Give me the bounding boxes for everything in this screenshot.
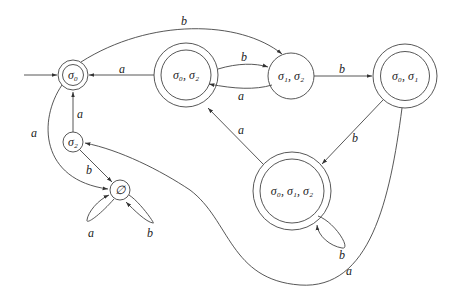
edge-label-s012-loop: b [339, 248, 345, 263]
edge-label-s2-empty: b [86, 163, 92, 178]
edge-label-s12-s02: a [238, 89, 244, 104]
edge-label-s01-s2: a [346, 264, 352, 279]
edge-label-s12-s01: b [339, 62, 345, 77]
edge-label-empty-loop-b: b [147, 226, 153, 241]
state-s0-label: σ₀ [68, 68, 78, 83]
edge-label-s0-empty: a [31, 126, 37, 141]
state-s02-label: σ₀, σ₂ [173, 68, 199, 83]
diagram-edges [0, 0, 459, 299]
edge-label-s01-s012: b [352, 131, 358, 146]
state-s12-label: σ₁, σ₂ [278, 69, 304, 84]
edge-label-s0-s12: b [181, 14, 187, 29]
edge-label-s02-s12: b [241, 50, 247, 65]
edge-label-s02-s0: a [119, 62, 125, 77]
edge-label-s2-s0: a [77, 107, 83, 122]
edge-label-s012-s02: a [238, 123, 244, 138]
state-s01-label: σ₀, σ₁ [392, 69, 418, 84]
state-s2-label: σ₂ [68, 135, 78, 150]
state-s012-label: σ₀, σ₁, σ₂ [271, 184, 313, 199]
edge-label-empty-loop-a: a [88, 226, 94, 241]
automaton-diagram: σ₀ σ₀, σ₂ σ₁, σ₂ σ₀, σ₁ σ₂ ∅ σ₀, σ₁, σ₂ … [0, 0, 459, 299]
state-empty-label: ∅ [115, 183, 125, 198]
